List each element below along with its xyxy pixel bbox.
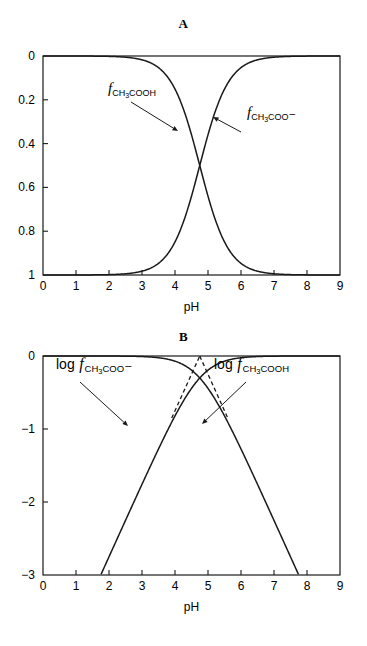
x-tick-label: 8 [304,279,311,293]
x-tick-label: 7 [271,579,278,593]
label-log-prefix: log [56,356,75,372]
y-tick-label: −3 [21,568,35,582]
y-tick-label: 0 [28,49,35,63]
annotation-arrow [131,102,173,128]
y-tick-label: −2 [21,495,35,509]
y-tick-label: 0.4 [18,137,35,151]
x-axis-label: pH [184,600,199,614]
annotation-arrow [80,382,124,422]
curve-label-ch3coo-minus: fCH3COO– [247,104,295,120]
x-tick-label: 6 [238,579,245,593]
x-tick-label: 9 [337,279,344,293]
x-tick-label: 3 [139,579,146,593]
x-axis-label: pH [184,300,199,314]
label-formula: CH3COOH [243,363,290,374]
x-tick-label: 1 [73,579,80,593]
panel-b: B 01234567890−1−2−3pH log fCH3COO– log f… [0,320,367,646]
curve-2 [43,56,340,275]
annotation-arrowhead [172,126,178,131]
x-tick-label: 1 [73,279,80,293]
panel-a-plot: 012345678900.20.40.60.81pH [0,0,367,320]
y-tick-label: 0.2 [18,93,35,107]
curve-label-log-ch3cooh: log fCH3COOH [214,356,290,372]
y-tick-label: 1 [28,268,35,282]
panel-a: A 012345678900.20.40.60.81pH fCH3COOH fC… [0,0,367,320]
curve-2 [43,356,298,574]
y-tick-label: 0.8 [18,224,35,238]
x-tick-label: 9 [337,579,344,593]
x-tick-label: 6 [238,279,245,293]
x-tick-label: 0 [40,579,47,593]
x-tick-label: 7 [271,279,278,293]
annotation-arrow [218,120,241,132]
curve-1 [101,356,340,574]
curve-label-log-ch3coo-minus: log fCH3COO– [56,356,131,372]
y-tick-label: 0.6 [18,180,35,194]
x-tick-label: 0 [40,279,47,293]
x-tick-label: 4 [172,579,179,593]
curve-1 [43,56,340,275]
label-formula: CH3COOH [112,88,157,98]
x-tick-label: 3 [139,279,146,293]
x-tick-label: 4 [172,279,179,293]
x-tick-label: 2 [106,579,113,593]
label-log-prefix: log [214,356,233,372]
y-tick-label: −1 [21,422,35,436]
label-formula: CH3COO– [251,112,295,122]
x-tick-label: 2 [106,279,113,293]
plot-frame [43,56,340,275]
label-formula: CH3COO– [85,363,132,374]
x-tick-label: 5 [205,579,212,593]
x-tick-label: 8 [304,579,311,593]
x-tick-label: 5 [205,279,212,293]
y-tick-label: 0 [28,349,35,363]
curve-label-ch3cooh: fCH3COOH [108,80,157,96]
